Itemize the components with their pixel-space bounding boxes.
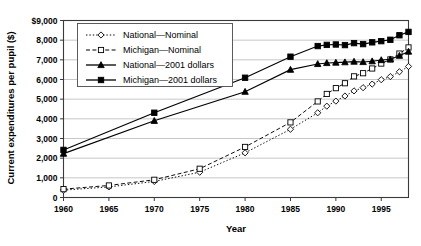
legend-marker-swatch — [98, 47, 103, 52]
data-point-marker — [406, 29, 411, 34]
data-point-marker — [342, 81, 347, 86]
data-point-marker — [351, 88, 357, 94]
data-point-marker — [61, 147, 66, 152]
data-point-marker — [333, 86, 338, 91]
data-point-marker — [396, 69, 402, 75]
x-tick-label: 1960 — [54, 204, 73, 214]
legend-item-label: Michigan—Nominal — [123, 45, 201, 55]
data-point-marker — [378, 77, 384, 83]
y-tick-label: 4,000 — [36, 114, 58, 124]
data-point-marker — [370, 66, 375, 71]
legend-item-label: Michigan—2001 dollars — [123, 75, 218, 85]
data-point-marker — [315, 43, 320, 48]
data-point-marker — [333, 42, 338, 47]
data-point-marker — [152, 110, 157, 115]
y-tick-label: 3,000 — [36, 134, 58, 144]
data-point-marker — [242, 75, 247, 80]
legend-item-label: National—2001 dollars — [123, 60, 215, 70]
y-tick-label: 6,000 — [36, 75, 58, 85]
y-axis-tick-labels: 01,0002,0003,0004,0005,0006,0007,0008,00… — [32, 16, 58, 203]
data-point-marker — [287, 126, 293, 132]
data-point-marker — [242, 150, 248, 156]
data-point-marker — [397, 33, 402, 38]
x-axis-title: Year — [226, 223, 246, 234]
chart-figure: 01,0002,0003,0004,0005,0006,0007,0008,00… — [0, 0, 421, 246]
legend-item-label: National—Nominal — [123, 30, 198, 40]
y-axis-title: Current expenditures per pupil ($) — [5, 31, 16, 184]
data-point-marker — [152, 177, 157, 182]
data-point-marker — [405, 63, 411, 69]
x-tick-label: 1975 — [190, 204, 209, 214]
data-point-marker — [242, 144, 247, 149]
expenditures-per-pupil-line-chart: 01,0002,0003,0004,0005,0006,0007,0008,00… — [0, 0, 421, 246]
data-point-marker — [242, 88, 248, 94]
data-point-marker — [197, 166, 202, 171]
data-point-marker — [324, 91, 329, 96]
data-point-marker — [387, 74, 393, 80]
y-tick-label: 0 — [53, 193, 58, 203]
data-point-marker — [324, 103, 330, 109]
data-point-marker — [288, 120, 293, 125]
data-point-marker — [342, 42, 347, 47]
x-tick-label: 1965 — [99, 204, 118, 214]
legend-marker-swatch — [98, 77, 103, 82]
y-tick-label: 7,000 — [36, 55, 58, 65]
data-point-marker — [106, 183, 111, 188]
x-tick-label: 1980 — [236, 204, 255, 214]
x-tick-label: 1990 — [326, 204, 345, 214]
data-point-marker — [361, 71, 366, 76]
data-point-marker — [369, 81, 375, 87]
x-tick-label: 1985 — [281, 204, 300, 214]
data-point-marker — [360, 41, 365, 46]
y-tick-label: 8,000 — [36, 35, 58, 45]
y-tick-label: 2,000 — [36, 153, 58, 163]
chart-legend: National—NominalMichigan—NominalNational… — [78, 24, 233, 87]
data-point-marker — [315, 99, 320, 104]
data-point-marker — [61, 187, 66, 192]
data-point-marker — [324, 42, 329, 47]
y-tick-label: 5,000 — [36, 94, 58, 104]
data-point-marker — [342, 93, 348, 99]
data-point-marker — [288, 54, 293, 59]
data-point-marker — [379, 38, 384, 43]
data-point-marker — [360, 85, 366, 91]
data-point-marker — [351, 40, 356, 45]
x-tick-label: 1995 — [372, 204, 391, 214]
data-point-marker — [388, 37, 393, 42]
data-point-marker — [369, 40, 374, 45]
data-point-marker — [351, 74, 356, 79]
x-tick-label: 1970 — [145, 204, 164, 214]
y-tick-label: 1,000 — [36, 173, 58, 183]
y-tick-label: $9,000 — [32, 16, 58, 26]
x-axis-tick-labels: 19601965197019751980198519901995 — [54, 204, 391, 214]
